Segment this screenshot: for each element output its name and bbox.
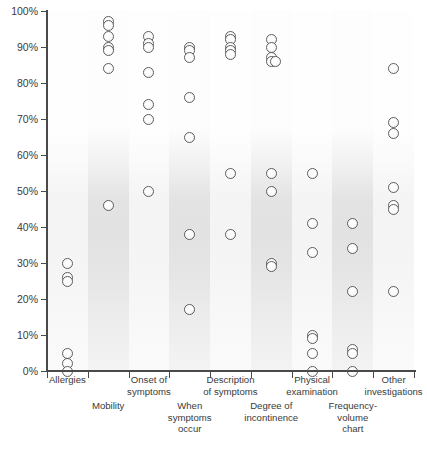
y-axis-labels: 100%90%80%70%60%50%40%30%20%10%0% (0, 0, 40, 455)
y-axis-tick-label: 80% (0, 77, 38, 89)
data-point (307, 168, 318, 179)
data-point (307, 247, 318, 258)
y-axis-tick-label: 100% (0, 5, 38, 17)
y-axis-tick (41, 299, 47, 300)
y-axis-tick-label: 60% (0, 149, 38, 161)
y-axis-tick (41, 371, 47, 372)
category-band (292, 11, 333, 371)
y-axis-tick (41, 227, 47, 228)
data-point (225, 49, 236, 60)
x-axis-category-label: When symptoms occur (155, 400, 224, 435)
data-point (266, 42, 277, 53)
y-axis-tick-label: 20% (0, 293, 38, 305)
x-axis-category-label: Description of symptoms (196, 374, 265, 397)
data-point (103, 31, 114, 42)
data-point (62, 348, 73, 359)
y-axis-tick (41, 119, 47, 120)
data-point (62, 276, 73, 287)
y-axis-tick (41, 83, 47, 84)
y-axis-tick (41, 191, 47, 192)
category-band (332, 11, 373, 371)
data-point (103, 63, 114, 74)
y-axis-tick-label: 70% (0, 113, 38, 125)
x-axis-category-label: Onset of symptoms (114, 374, 183, 397)
data-point (266, 168, 277, 179)
data-point (388, 182, 399, 193)
x-axis-category-label: Allergies (33, 374, 102, 386)
y-axis-tick (41, 47, 47, 48)
y-axis-tick-label: 30% (0, 257, 38, 269)
x-axis-category-label: Other investigations (359, 374, 427, 397)
data-point (388, 204, 399, 215)
data-point (347, 348, 358, 359)
category-band (210, 11, 251, 371)
data-point (270, 56, 281, 67)
data-point (184, 132, 195, 143)
data-point (266, 261, 277, 272)
data-point (307, 333, 318, 344)
data-point (388, 128, 399, 139)
data-point (103, 20, 114, 31)
y-axis-tick-label: 10% (0, 329, 38, 341)
category-band (47, 11, 88, 371)
y-axis-tick (41, 11, 47, 12)
y-axis-tick-label: 50% (0, 185, 38, 197)
data-point (225, 168, 236, 179)
x-axis-category-label: Physical examination (277, 374, 346, 397)
data-point (307, 348, 318, 359)
plot-area (47, 11, 414, 371)
data-point (143, 186, 154, 197)
data-point (143, 42, 154, 53)
y-axis-tick (41, 335, 47, 336)
data-point (225, 229, 236, 240)
data-point (62, 258, 73, 269)
category-band (169, 11, 210, 371)
data-point (266, 186, 277, 197)
y-axis-tick (41, 263, 47, 264)
x-axis-category-label: Degree of incontinence (237, 400, 306, 423)
x-axis-category-label: Mobility (74, 400, 143, 412)
data-point (103, 200, 114, 211)
data-point (307, 218, 318, 229)
data-point (143, 114, 154, 125)
x-axis-line (46, 370, 416, 372)
x-axis-category-label: Frequency- volume chart (318, 400, 387, 435)
y-axis-tick (41, 155, 47, 156)
data-point (103, 45, 114, 56)
data-point (184, 229, 195, 240)
y-axis-tick-label: 40% (0, 221, 38, 233)
y-axis-tick-label: 90% (0, 41, 38, 53)
